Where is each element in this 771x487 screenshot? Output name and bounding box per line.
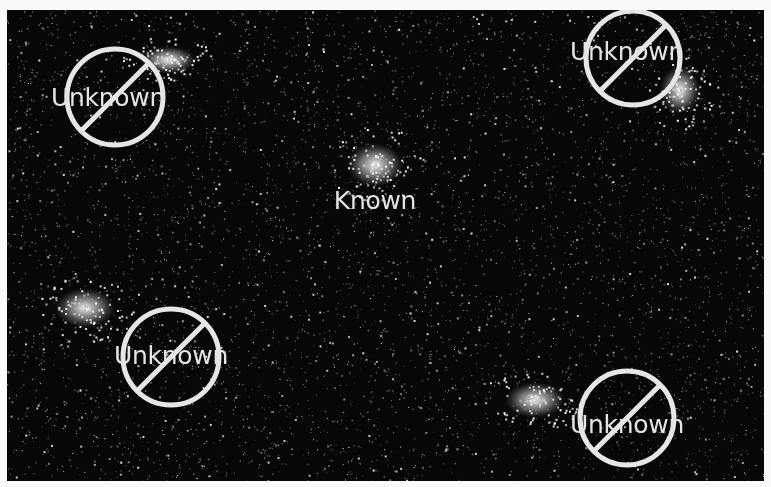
unknown-label: Unknown: [114, 341, 228, 370]
microscopy-image: Known Unknown Unknown Unknown Unknown: [7, 10, 764, 481]
unknown-label: Unknown: [51, 83, 165, 112]
known-label: Known: [334, 186, 416, 215]
prohibition-icon: [7, 10, 8, 11]
unknown-label: Unknown: [570, 410, 684, 439]
unknown-label: Unknown: [570, 37, 684, 66]
